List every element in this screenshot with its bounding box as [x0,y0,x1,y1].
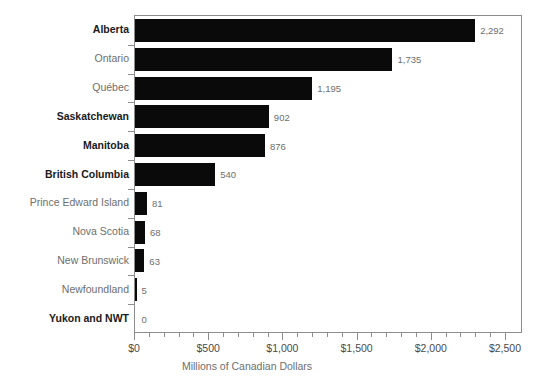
bar [135,163,215,186]
x-axis-major-tick [134,333,135,340]
x-axis-minor-tick [460,333,461,337]
x-axis-minor-tick [490,333,491,337]
category-label: Alberta [0,23,129,35]
x-axis-major-tick [505,333,506,340]
x-axis-major-tick [208,333,209,340]
bar [135,105,269,128]
x-axis-tick-label: $0 [128,342,140,354]
x-axis-major-tick [431,333,432,340]
bar-row: 876 [135,134,522,157]
y-axis-tick [128,189,134,190]
bar-value-label: 68 [145,227,161,238]
x-axis-minor-tick [223,333,224,337]
category-axis-labels: AlbertaOntarioQuébecSaskatchewanManitoba… [0,15,129,333]
bar-row: 5 [135,278,522,301]
x-axis-minor-tick [371,333,372,337]
x-axis-title: Millions of Canadian Dollars [0,360,536,372]
bar [135,192,147,215]
x-axis-minor-tick [193,333,194,337]
bar-value-label: 876 [265,140,286,151]
x-axis-minor-tick [475,333,476,337]
category-label: Ontario [0,52,129,64]
bar [135,48,392,71]
category-label: British Columbia [0,168,129,180]
bar-value-label: 540 [215,169,236,180]
x-axis-tick-label: $2,000 [415,342,447,354]
bar-value-label: 81 [147,198,163,209]
category-label: Newfoundland [0,283,129,295]
y-axis-tick [128,275,134,276]
x-axis-minor-tick [179,333,180,337]
x-axis-minor-tick [297,333,298,337]
y-axis-tick [128,247,134,248]
bar-row: 63 [135,249,522,272]
x-axis-minor-tick [149,333,150,337]
bar-value-label: 902 [269,111,290,122]
category-label: Prince Edward Island [0,196,129,208]
bar [135,134,265,157]
bar [135,77,312,100]
x-axis-tick-label: $1,000 [266,342,298,354]
x-axis-minor-tick [342,333,343,337]
category-label: New Brunswick [0,254,129,266]
bar-row: 0 [135,307,522,330]
x-axis-minor-tick [401,333,402,337]
x-axis-minor-tick [446,333,447,337]
x-axis-title-text: Millions of Canadian Dollars [182,360,312,372]
bar-row: 2,292 [135,19,522,42]
bars-layer: 2,2921,7351,19590287654081686350 [135,16,522,333]
x-axis-tick-label: $2,500 [489,342,521,354]
bar [135,19,475,42]
bar-row: 902 [135,105,522,128]
bar [135,249,144,272]
category-label: Québec [0,81,129,93]
bar-value-label: 5 [137,284,147,295]
bar-row: 81 [135,192,522,215]
x-axis-minor-tick [386,333,387,337]
bar-value-label: 2,292 [475,25,504,36]
bar-row: 68 [135,221,522,244]
x-axis-minor-tick [416,333,417,337]
y-axis-tick [128,304,134,305]
y-axis-tick [128,160,134,161]
x-axis-minor-tick [268,333,269,337]
y-axis-tick [128,102,134,103]
category-label: Nova Scotia [0,225,129,237]
x-axis-major-tick [357,333,358,340]
x-axis-minor-tick [327,333,328,337]
x-axis-minor-tick [312,333,313,337]
y-axis-tick [128,131,134,132]
category-label: Manitoba [0,139,129,151]
bar-value-label: 1,195 [312,83,341,94]
bar-row: 1,195 [135,77,522,100]
bar-row: 540 [135,163,522,186]
bar-row: 1,735 [135,48,522,71]
category-label: Yukon and NWT [0,312,129,324]
y-axis-tick [128,218,134,219]
x-axis-minor-tick [238,333,239,337]
bar [135,221,145,244]
y-axis-tick [128,45,134,46]
bar-value-label: 63 [144,255,160,266]
y-axis-tick [128,74,134,75]
x-axis-major-tick [282,333,283,340]
bar-value-label: 0 [137,313,147,324]
x-axis-tick-label: $500 [197,342,220,354]
bar-chart: AlbertaOntarioQuébecSaskatchewanManitoba… [0,0,536,390]
x-axis-minor-tick [164,333,165,337]
x-axis-tick-label: $1,500 [341,342,373,354]
bar-value-label: 1,735 [392,54,421,65]
category-label: Saskatchewan [0,110,129,122]
x-axis-minor-tick [253,333,254,337]
